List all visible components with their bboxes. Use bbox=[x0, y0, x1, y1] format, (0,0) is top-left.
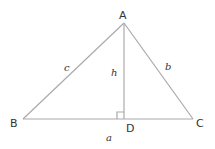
side-c-line bbox=[23, 23, 124, 119]
side-label-c: c bbox=[64, 62, 70, 73]
side-label-a: a bbox=[106, 132, 112, 143]
side-b-line bbox=[124, 23, 193, 119]
vertex-label-b: B bbox=[10, 117, 18, 130]
vertex-label-c: C bbox=[196, 117, 204, 130]
side-label-b: b bbox=[165, 61, 171, 72]
vertex-label-d: D bbox=[126, 122, 134, 135]
right-angle-marker bbox=[117, 112, 124, 119]
side-label-h: h bbox=[111, 67, 117, 78]
triangle-diagram: A B C D c b h a bbox=[0, 0, 215, 149]
vertex-label-a: A bbox=[119, 9, 127, 22]
